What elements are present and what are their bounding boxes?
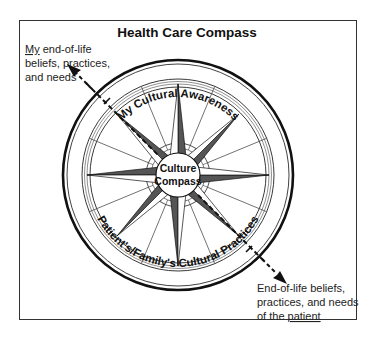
compass-point-w (87, 167, 160, 183)
point-dark-half (196, 175, 269, 183)
health-care-compass-diagram: Health Care Compass My end-of-life belie… (0, 0, 377, 338)
right-label-line3-prefix: of the (257, 310, 288, 322)
left-label-line1-rest: end-of-life (40, 43, 92, 55)
inner-tick (188, 145, 190, 150)
point-light-half (87, 175, 160, 183)
right-label-line1: End-of-life beliefs, (257, 282, 345, 294)
point-dark-half (191, 114, 239, 167)
diagram-title: Health Care Compass (117, 25, 257, 40)
inner-tick (188, 200, 190, 205)
point-light-half (186, 114, 239, 162)
left-label-line2: beliefs, practices, (25, 57, 110, 69)
point-dark-half (87, 167, 160, 175)
point-light-half (196, 167, 269, 175)
my-emphasis: My (25, 43, 40, 55)
center-label-line1: Culture (160, 162, 197, 174)
point-dark-half (170, 193, 178, 266)
svg-text:My end-of-life: My end-of-life (25, 43, 92, 55)
point-light-half (117, 114, 165, 167)
point-light-half (117, 188, 170, 236)
compass-rose-icon: Culture Compass My Cultural Awareness Pa… (63, 60, 293, 290)
point-dark-half (117, 114, 170, 162)
inner-tick (203, 163, 208, 165)
point-dark-half (186, 188, 239, 236)
left-label-line3: and needs (25, 71, 77, 83)
point-dark-half (117, 183, 165, 236)
inner-tick (148, 185, 153, 187)
svg-text:of the patient: of the patient (257, 310, 321, 322)
inner-tick (166, 145, 168, 150)
my-beliefs-label: My end-of-life beliefs, practices, and n… (25, 43, 110, 83)
point-light-half (191, 183, 239, 236)
patient-emphasis: patient (288, 310, 321, 322)
right-label-line2: practices, and needs (257, 296, 359, 308)
inner-tick (203, 185, 208, 187)
patient-beliefs-label: End-of-life beliefs, practices, and need… (257, 282, 359, 322)
compass-point-e (196, 167, 269, 183)
center-label-line2: Compass (154, 175, 201, 187)
inner-tick (148, 163, 153, 165)
point-light-half (178, 193, 186, 266)
inner-tick (166, 200, 168, 205)
arrow-down-right-icon (262, 259, 287, 284)
compass-point-s (170, 193, 186, 266)
